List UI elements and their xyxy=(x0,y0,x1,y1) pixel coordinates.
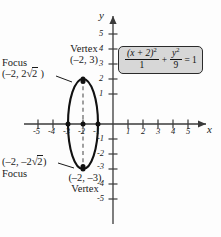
x-tick-label--5: -5 xyxy=(33,127,40,136)
fraction-y-term: y2 9 xyxy=(170,49,181,70)
annotation-vertex-bottom: (–2, –3) Vertex xyxy=(57,172,113,194)
x-tick-label--2: -2 xyxy=(78,127,85,136)
equation-equals-sign: = xyxy=(185,55,190,65)
x-numerator-exponent: 2 xyxy=(153,46,156,53)
x-tick-label--3: -3 xyxy=(63,127,70,136)
y-axis-arrowhead xyxy=(109,16,116,24)
x-tick-label-5: 5 xyxy=(186,127,190,136)
equation-right-hand-side: 1 xyxy=(192,55,197,65)
annotation-vertex-bottom-coords: (–2, –3) xyxy=(57,172,113,183)
y-numerator-exponent: 2 xyxy=(176,46,179,53)
coordinate-plane xyxy=(0,0,221,237)
x-tick-label-2: 2 xyxy=(141,127,145,136)
annotation-vertex-bottom-title: Vertex xyxy=(57,183,113,194)
annotation-focus-top: Focus (–2, 2√2 ) xyxy=(2,57,64,80)
focus-top-coords-suffix: ) xyxy=(38,68,44,79)
x-axis-label: x xyxy=(207,124,212,136)
equation-box: (x + 2)2 1 + y2 9 = 1 xyxy=(118,46,203,74)
y-tick-label--3: -3 xyxy=(97,162,104,171)
y-axis-label: y xyxy=(99,10,104,22)
y-tick-label-1: 1 xyxy=(99,89,103,98)
x-tick-label-1: 1 xyxy=(126,127,130,136)
annotation-vertex-top-title: Vertex xyxy=(56,43,112,54)
x-axis-arrowhead xyxy=(198,120,206,127)
focus-bottom-coords-prefix: (–2, –2 xyxy=(2,156,32,167)
x-tick-label-4: 4 xyxy=(171,127,175,136)
fraction-y-denominator: 9 xyxy=(173,60,178,70)
y-tick-label-2: 2 xyxy=(99,74,103,83)
equation-plus-sign: + xyxy=(162,55,167,65)
sqrt-icon: √2 xyxy=(27,68,38,80)
y-tick-label-5: 5 xyxy=(99,29,103,38)
fraction-x-term: (x + 2)2 1 xyxy=(125,49,159,70)
x-tick-label--4: -4 xyxy=(48,127,55,136)
point-focus-top xyxy=(81,79,86,84)
fraction-y-numerator: y2 xyxy=(170,49,181,60)
annotation-focus-top-coords: (–2, 2√2 ) xyxy=(2,68,64,80)
focus-top-coords-prefix: (–2, 2 xyxy=(2,68,27,79)
point-focus-bottom xyxy=(81,164,86,169)
ellipse-equation: (x + 2)2 1 + y2 9 = 1 xyxy=(124,49,197,70)
y-tick-label--2: -2 xyxy=(97,149,104,158)
y-tick-label--1: -1 xyxy=(97,134,104,143)
fraction-x-denominator: 1 xyxy=(139,60,144,70)
fraction-x-numerator: (x + 2)2 xyxy=(125,49,159,60)
annotation-vertex-top-coords: (–2, 3) xyxy=(56,54,112,65)
sqrt-icon: √2 xyxy=(32,156,43,168)
y-tick-label--5: -5 xyxy=(97,194,104,203)
focus-bottom-coords-suffix: ) xyxy=(43,156,47,167)
x-tick-label-3: 3 xyxy=(156,127,160,136)
x-numerator-text: (x + 2) xyxy=(127,48,153,58)
ellipse-graph-figure: x y -5 -4 -3 -2 -1 1 2 3 4 5 5 4 3 2 1 -… xyxy=(0,0,221,237)
annotation-focus-bottom-coords: (–2, –2√2) xyxy=(2,156,72,168)
annotation-vertex-top: Vertex (–2, 3) xyxy=(56,43,112,65)
